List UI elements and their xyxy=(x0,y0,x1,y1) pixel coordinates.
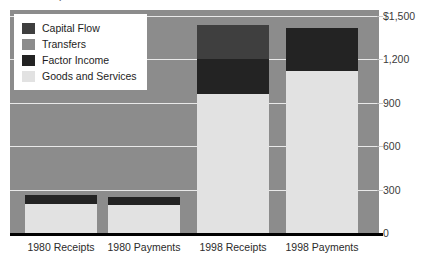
legend-label: Transfers xyxy=(42,39,86,50)
chart-figure: Balance of Payments 03006009001,200$1,50… xyxy=(0,0,428,262)
y-axis-tick-label: 0 xyxy=(383,228,389,238)
y-axis-tick-label: 300 xyxy=(383,185,401,195)
y-axis-tick-label: 900 xyxy=(383,98,401,108)
legend-swatch-icon xyxy=(22,39,35,50)
x-axis-label-1980-payments: 1980 Payments xyxy=(98,241,190,253)
y-axis-tick-mark xyxy=(377,146,383,147)
legend-swatch-icon xyxy=(22,71,35,82)
legend-item: Transfers xyxy=(22,36,137,52)
bar-segment-capital-flow xyxy=(197,25,269,60)
legend-item: Capital Flow xyxy=(22,20,137,36)
bar-1998-receipts xyxy=(197,25,269,233)
legend-swatch-icon xyxy=(22,23,35,34)
bar-segment-factor-income xyxy=(286,28,358,71)
bar-1980-payments xyxy=(108,195,180,233)
x-axis-label-1998-payments: 1998 Payments xyxy=(276,241,368,253)
bar-1998-payments xyxy=(286,28,358,233)
bar-segment-goods-and-services xyxy=(25,204,97,233)
y-axis-tick-label: $1,500 xyxy=(383,11,415,21)
x-axis-line xyxy=(10,233,383,236)
y-axis-tick-mark xyxy=(377,190,383,191)
x-axis-label-1980-receipts: 1980 Receipts xyxy=(15,241,107,253)
legend-item: Factor Income xyxy=(22,52,137,68)
legend-label: Factor Income xyxy=(42,55,109,66)
bar-segment-factor-income xyxy=(25,195,97,204)
chart-caption: Balance of Payments xyxy=(3,0,87,1)
bar-segment-goods-and-services xyxy=(197,94,269,233)
legend-item: Goods and Services xyxy=(22,68,137,84)
legend-label: Capital Flow xyxy=(42,23,100,34)
legend-swatch-icon xyxy=(22,55,35,66)
bar-segment-goods-and-services xyxy=(108,205,180,233)
bar-segment-factor-income xyxy=(108,197,180,205)
y-axis-tick-mark xyxy=(377,103,383,104)
bar-segment-goods-and-services xyxy=(286,71,358,233)
bar-1980-receipts xyxy=(25,195,97,233)
x-axis-label-1998-receipts: 1998 Receipts xyxy=(187,241,279,253)
y-axis-tick-label: 600 xyxy=(383,141,401,151)
y-axis-tick-label: 1,200 xyxy=(383,54,409,64)
y-axis: 03006009001,200$1,500 xyxy=(383,0,428,262)
chart-legend: Capital FlowTransfersFactor IncomeGoods … xyxy=(14,14,147,90)
y-axis-tick-mark xyxy=(377,59,383,60)
legend-label: Goods and Services xyxy=(42,71,137,82)
y-axis-tick-mark xyxy=(377,16,383,17)
bar-segment-factor-income xyxy=(197,59,269,94)
